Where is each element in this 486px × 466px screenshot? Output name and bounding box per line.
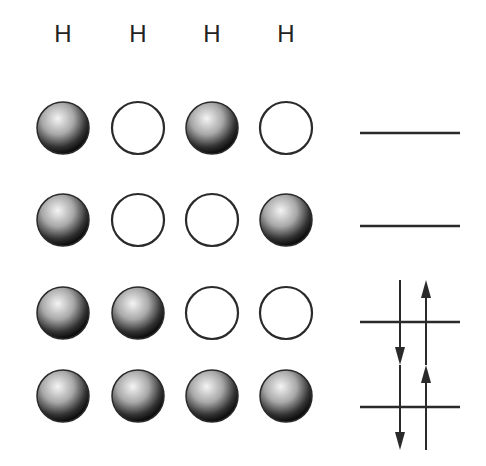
filled-sphere — [37, 102, 89, 154]
filled-sphere — [112, 370, 164, 422]
empty-sphere — [186, 194, 238, 246]
filled-sphere — [186, 370, 238, 422]
orbital-3 — [37, 194, 312, 246]
energy-level — [360, 280, 460, 365]
empty-sphere — [112, 102, 164, 154]
energy-levels — [360, 133, 460, 450]
empty-sphere — [186, 287, 238, 339]
energy-level — [360, 365, 460, 450]
empty-sphere — [260, 102, 312, 154]
filled-sphere — [186, 102, 238, 154]
orbital-4 — [37, 102, 312, 154]
molecular-orbital-diagram — [0, 0, 486, 466]
filled-sphere — [37, 370, 89, 422]
filled-sphere — [37, 287, 89, 339]
orbital-2 — [37, 287, 312, 339]
filled-sphere — [260, 194, 312, 246]
filled-sphere — [112, 287, 164, 339]
empty-sphere — [260, 287, 312, 339]
filled-sphere — [260, 370, 312, 422]
orbital-1 — [37, 370, 312, 422]
empty-sphere — [112, 194, 164, 246]
filled-sphere — [37, 194, 89, 246]
orbital-spheres — [37, 102, 312, 422]
